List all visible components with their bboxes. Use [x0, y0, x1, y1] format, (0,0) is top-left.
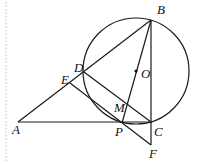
point-labels: BODEAPCMF — [11, 2, 165, 161]
label-point-e: E — [60, 72, 69, 87]
label-point-c: C — [154, 124, 163, 139]
label-point-a: A — [11, 122, 20, 137]
label-point-b: B — [157, 2, 165, 17]
point-o-dot — [134, 69, 137, 72]
label-point-f: F — [148, 146, 158, 161]
label-point-p: P — [114, 124, 123, 139]
label-point-d: D — [73, 60, 84, 75]
geometry-figure: BODEAPCMF — [0, 0, 198, 164]
label-point-m: M — [113, 100, 126, 115]
label-point-o: O — [141, 66, 151, 81]
